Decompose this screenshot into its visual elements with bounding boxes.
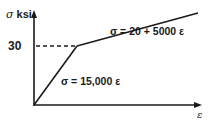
- x-axis-arrow-icon: [194, 102, 202, 108]
- y-axis-unit: ksi: [17, 8, 32, 20]
- x-axis-label: ε: [197, 110, 202, 120]
- sigma-symbol: σ: [6, 8, 14, 21]
- stress-strain-diagram: [0, 0, 215, 132]
- plastic-equation: σ = 20 + 5000 ε: [110, 26, 184, 37]
- y-axis-arrow-icon: [31, 10, 37, 18]
- elastic-equation: σ = 15,000 ε: [61, 76, 120, 87]
- y-axis-label: σ ksi: [6, 9, 32, 20]
- y-tick-30: 30: [8, 40, 21, 52]
